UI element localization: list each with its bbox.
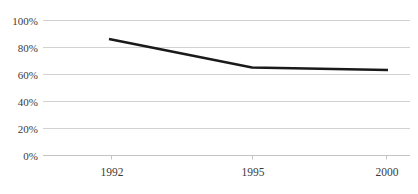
y-tick-label-80: 80% xyxy=(0,43,38,54)
data-series-line xyxy=(109,39,388,70)
y-tick-label-0: 0% xyxy=(0,151,38,162)
x-tick-label-2000: 2000 xyxy=(357,167,417,179)
x-tick-label-1995: 1995 xyxy=(223,167,283,179)
y-tick-label-20: 20% xyxy=(0,124,38,135)
gridlines xyxy=(43,21,410,129)
y-tick-label-40: 40% xyxy=(0,97,38,108)
y-tick-label-60: 60% xyxy=(0,70,38,81)
line-chart-plot xyxy=(0,0,418,194)
x-axis-ticks xyxy=(112,156,387,160)
y-tick-label-100: 100% xyxy=(0,16,38,27)
x-tick-label-1992: 1992 xyxy=(82,167,142,179)
chart-container: 100% 80% 60% 40% 20% 0% 1992 1995 2000 xyxy=(0,0,418,194)
